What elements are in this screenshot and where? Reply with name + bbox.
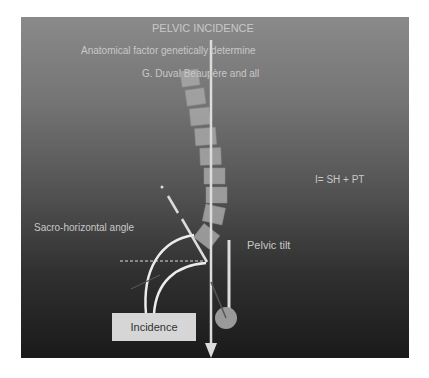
diagram-title: PELVIC INCIDENCE xyxy=(152,22,254,34)
vertebrae xyxy=(180,69,227,249)
incidence-label: Incidence xyxy=(130,321,177,333)
sacro-horizontal-label: Sacro-horizontal angle xyxy=(34,222,134,233)
diagram-credit: G. Duval Beaupère and all xyxy=(142,68,259,79)
formula-label: I= SH + PT xyxy=(315,174,364,185)
incidence-box: Incidence xyxy=(112,313,196,341)
pelvic-tilt-label: Pelvic tilt xyxy=(247,239,290,251)
spine-pelvis-diagram xyxy=(0,0,429,378)
diagram-subtitle: Anatomical factor genetically determine xyxy=(81,45,256,56)
